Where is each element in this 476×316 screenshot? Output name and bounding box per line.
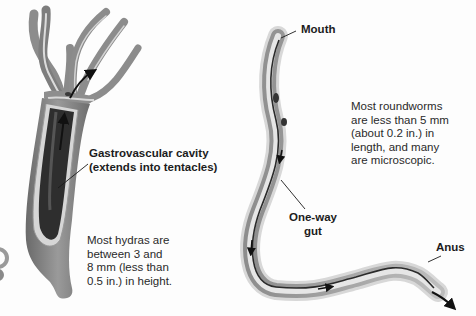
partial-object-left-edge — [0, 249, 7, 281]
hydra-note-line: 0.5 in.) in height. — [87, 275, 172, 289]
roundworm-note-line: (about 0.2 in.) in — [351, 127, 449, 141]
roundworm-note-line: length, and many — [351, 141, 449, 155]
roundworm-note-line: Most roundworms — [351, 100, 449, 114]
roundworm-note-line: are microscopic. — [351, 154, 449, 168]
roundworm-note-line: are less than 5 mm — [351, 114, 449, 128]
hydra-note-line: between 3 and — [87, 248, 172, 262]
hydra-note-line: 8 mm (less than — [87, 261, 172, 275]
roundworm-size-note: Most roundworms are less than 5 mm (abou… — [351, 100, 449, 168]
diagram-stage: Gastrovascular cavity (extends into tent… — [0, 0, 476, 316]
mouth-label: Mouth — [301, 23, 335, 37]
one-way-gut-label: One-way gut — [289, 211, 337, 238]
roundworm-illustration — [250, 31, 452, 306]
hydra-size-note: Most hydras are between 3 and 8 mm (less… — [87, 234, 172, 288]
hydra-note-line: Most hydras are — [87, 234, 172, 248]
gastrovascular-cavity-label: Gastrovascular cavity (extends into tent… — [89, 147, 217, 174]
one-way-gut-label-line1: One-way — [289, 211, 337, 225]
gastrovascular-cavity-label-line2: (extends into tentacles) — [89, 161, 217, 175]
anus-label: Anus — [436, 241, 465, 255]
gastrovascular-cavity-label-line1: Gastrovascular cavity — [89, 147, 217, 161]
one-way-gut-label-line2: gut — [289, 225, 337, 239]
